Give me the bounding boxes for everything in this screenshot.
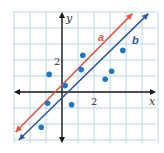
data-point (109, 68, 115, 74)
data-point (78, 67, 84, 73)
line-b (19, 14, 149, 140)
data-point (46, 72, 52, 78)
data-point (69, 102, 75, 108)
data-point (80, 52, 86, 58)
data-point (120, 48, 126, 54)
line-a (16, 14, 133, 132)
y-axis-label: y (65, 12, 73, 25)
trend-lines (16, 14, 149, 140)
x-axis: x 2 (14, 89, 156, 108)
x-tick-label: 2 (91, 96, 97, 107)
data-point (62, 83, 68, 89)
y-axis-up-arrow-icon (59, 12, 65, 18)
x-axis-left-arrow-icon (14, 89, 20, 95)
data-point (38, 124, 44, 130)
data-point (45, 100, 51, 106)
line-a-label: a (98, 31, 104, 43)
x-axis-label: x (149, 95, 156, 108)
data-point (102, 76, 108, 82)
y-tick-label: 2 (54, 56, 60, 67)
line-b-label: b (132, 34, 139, 46)
scatter-plot: x 2 y 2 a b (0, 0, 164, 153)
